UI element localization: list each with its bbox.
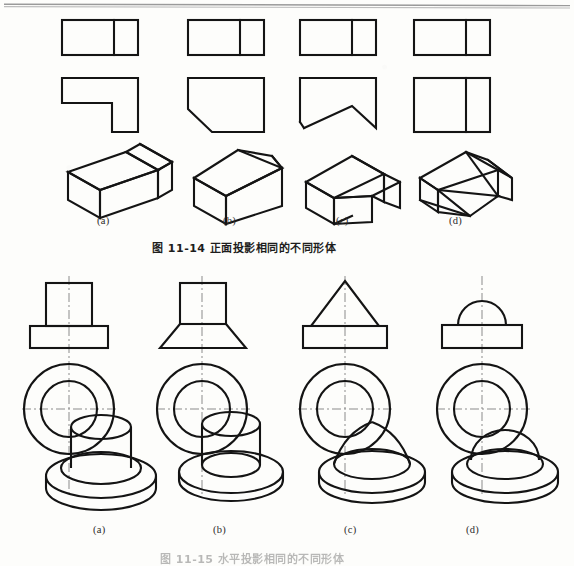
figure-top-label-a: (a) — [97, 215, 110, 226]
figure-top-label-c: (c) — [336, 215, 349, 226]
figure-top-col-a-pictorial — [68, 144, 172, 218]
figure-top-col-b-front-view — [188, 20, 264, 55]
figure-top-col-c-top-view — [300, 78, 376, 128]
figure-top-label-d: (d) — [449, 215, 462, 226]
figure-top-col-d-pictorial — [420, 152, 512, 216]
figure-bottom-col-b-front-view — [160, 283, 246, 348]
figure-bottom-col-b-pictorial — [179, 412, 283, 501]
page-top-rule — [0, 3, 574, 9]
figure-top-col-c-front-view — [300, 20, 376, 55]
figure-top-caption: 图 11-14 正面投影相同的不同形体 — [152, 239, 336, 255]
figure-top-col-a-top-view — [62, 78, 138, 132]
figure-top-col-a-front-view — [62, 20, 138, 55]
figure-bottom-col-d-pictorial — [452, 430, 558, 503]
figure-bottom-label-d: (d) — [466, 524, 479, 535]
figure-top-col-b-top-view — [188, 78, 264, 132]
figure-bottom-label-a: (a) — [93, 524, 106, 535]
figure-top-col-c-pictorial — [306, 156, 400, 224]
figure-top-col-d-top-view — [414, 78, 490, 132]
figure-bottom-label-b: (b) — [213, 524, 226, 535]
figure-bottom-col-a-pictorial — [46, 415, 156, 510]
figure-bottom-caption: 图 11-15 水平投影相同的不同形体 — [160, 550, 344, 566]
figure-top-label-b: (b) — [223, 215, 236, 226]
figure-11-15-drawing — [0, 272, 574, 552]
figure-top-col-d-front-view — [414, 20, 490, 55]
figure-11-14-drawing — [0, 10, 574, 242]
figure-top-col-b-pictorial — [194, 150, 282, 224]
figure-bottom-label-c: (c) — [344, 524, 357, 535]
